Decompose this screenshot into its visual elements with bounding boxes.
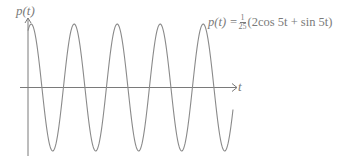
fraction-denominator: 25 xyxy=(239,23,247,31)
formula-fraction: 1 25 xyxy=(239,14,247,31)
formula-annotation: p(t) = 1 25 (2cos 5t + sin 5t) xyxy=(208,14,332,31)
formula-rhs: (2cos 5t + sin 5t) xyxy=(248,15,333,30)
formula-lhs: p(t) = xyxy=(208,15,238,30)
x-axis-label: t xyxy=(238,79,242,95)
y-axis-label: p(t) xyxy=(16,3,35,19)
